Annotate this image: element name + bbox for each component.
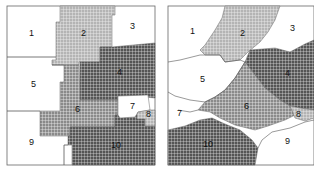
right-label-2: 2: [240, 28, 245, 38]
region-maps-figure: 1 2 3 4 5 6 7 8 9 10 1 2 3 4 5 6 7 8: [0, 0, 314, 171]
right-label-10: 10: [203, 139, 213, 149]
left-label-9: 9: [29, 137, 34, 147]
left-label-5: 5: [31, 79, 36, 89]
right-label-8: 8: [296, 109, 301, 119]
right-label-7: 7: [177, 108, 182, 118]
left-label-3: 3: [130, 21, 135, 31]
left-label-7: 7: [130, 101, 135, 111]
right-label-4: 4: [285, 68, 290, 78]
right-label-5: 5: [200, 74, 205, 84]
left-label-10: 10: [111, 140, 121, 150]
right-label-6: 6: [244, 101, 249, 111]
right-label-9: 9: [285, 136, 290, 146]
right-label-1: 1: [190, 26, 195, 36]
left-label-2: 2: [81, 28, 86, 38]
left-label-6: 6: [75, 104, 80, 114]
right-panel: 1 2 3 4 5 6 7 8 9 10: [168, 6, 314, 165]
left-panel: 1 2 3 4 5 6 7 8 9 10: [7, 6, 155, 165]
left-label-8: 8: [146, 109, 151, 119]
left-label-1: 1: [29, 28, 34, 38]
left-label-4: 4: [117, 67, 122, 77]
right-label-3: 3: [290, 23, 295, 33]
